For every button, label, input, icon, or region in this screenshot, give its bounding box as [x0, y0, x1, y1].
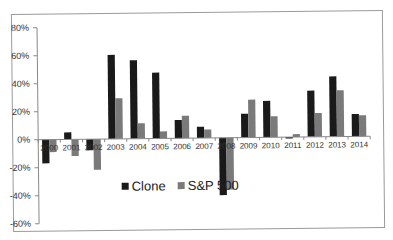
bar-sp500 [315, 113, 322, 137]
y-tick-label: 60% [11, 51, 29, 61]
bar-chart: 80%60%40%20%0%-20%-40%-60% 2000200120022… [0, 0, 393, 240]
y-axis: 80%60%40%20%0%-20%-40%-60% [8, 23, 39, 229]
y-tick-label: 20% [12, 107, 30, 117]
x-tick-label: 2003 [107, 143, 125, 152]
bar-sp500 [115, 98, 123, 139]
legend-swatch [122, 183, 129, 190]
bar-sp500 [182, 116, 189, 138]
x-tick-label: 2011 [284, 141, 302, 150]
bar-clone [175, 120, 182, 138]
bar-clone [329, 76, 337, 136]
x-tick-label: 2001 [63, 143, 81, 152]
bar-clone [64, 132, 71, 139]
x-tick-label: 2013 [328, 140, 346, 149]
bar-sp500 [359, 115, 366, 136]
bar-clone [307, 91, 315, 137]
legend-label: S&P 500 [188, 178, 239, 194]
legend: CloneS&P 500 [122, 178, 239, 194]
x-tick-label: 2014 [350, 140, 368, 149]
x-tick-label: 2004 [129, 143, 147, 152]
bar-sp500 [248, 100, 256, 138]
bar-clone [130, 60, 138, 138]
bar-clone [108, 55, 116, 139]
x-tick-label: 2006 [173, 142, 191, 151]
y-tick-label: 40% [12, 79, 30, 89]
bar-clone [241, 114, 248, 138]
y-tick-label: 80% [11, 23, 29, 33]
bar-clone [263, 101, 271, 137]
bar-sp500 [270, 116, 277, 137]
legend-swatch [178, 182, 185, 189]
x-axis: 2000200120022003200420052006200720082009… [38, 136, 370, 152]
bar-clone [152, 73, 160, 139]
bar-sp500 [160, 131, 167, 138]
bar-sp500 [138, 123, 145, 138]
y-tick-label: 0% [17, 135, 30, 145]
x-tick-label: 2005 [151, 142, 169, 151]
y-tick-label: -40% [10, 191, 31, 201]
y-tick-label: -20% [9, 163, 30, 173]
x-tick-label: 2010 [262, 141, 280, 150]
legend-label: Clone [132, 178, 166, 193]
x-tick-label: 2008 [217, 142, 235, 151]
x-tick-label: 2000 [40, 143, 58, 152]
bar-clone [352, 114, 359, 136]
x-tick-label: 2009 [240, 141, 258, 150]
x-tick-label: 2002 [85, 143, 103, 152]
bar-series [41, 52, 367, 197]
x-tick-label: 2007 [195, 142, 213, 151]
x-tick-label: 2012 [306, 141, 324, 150]
y-tick-label: -60% [10, 219, 31, 229]
bar-sp500 [204, 129, 211, 137]
bar-sp500 [336, 90, 344, 136]
bar-clone [197, 127, 204, 138]
